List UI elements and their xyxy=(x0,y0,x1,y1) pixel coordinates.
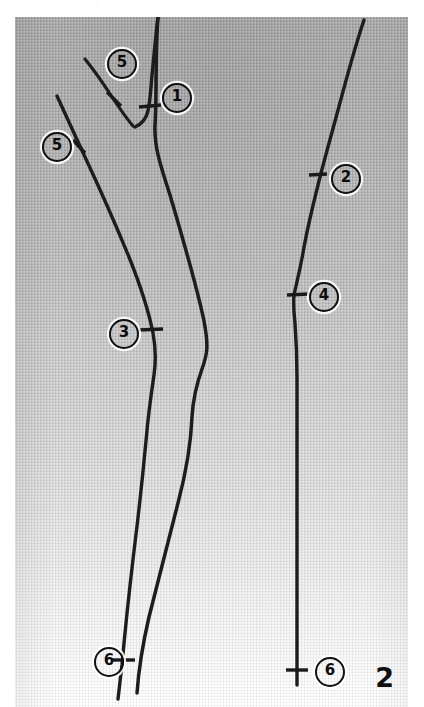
tick-1 xyxy=(139,105,161,107)
tick-5-top xyxy=(107,92,121,106)
tick-3 xyxy=(139,329,163,330)
reference-label-6-right: 6 xyxy=(315,657,345,687)
tick-2 xyxy=(309,174,327,175)
reference-label-4: 4 xyxy=(309,282,339,312)
figure-root: · · · · · · 1 5 xyxy=(0,0,424,707)
stem-diagram-svg xyxy=(15,17,408,707)
reference-label-3: 3 xyxy=(109,319,139,349)
stem-main-left xyxy=(137,17,207,693)
stem-paths-group xyxy=(57,17,364,699)
tick-marks-group xyxy=(73,92,327,670)
reference-label-1: 1 xyxy=(162,83,192,113)
photographic-plate: 1 5 5 2 3 4 6 6 2 xyxy=(15,17,408,707)
reference-label-2: 2 xyxy=(331,164,361,194)
header-text-remnant: · · · · · · xyxy=(8,0,208,9)
reference-label-6-left: 6 xyxy=(94,647,124,677)
reference-label-5-left: 5 xyxy=(42,132,72,162)
panel-number: 2 xyxy=(375,664,394,691)
stem-left-long xyxy=(57,96,155,699)
reference-label-5-top: 5 xyxy=(107,49,137,79)
stem-right xyxy=(294,20,364,685)
tick-4 xyxy=(287,294,309,295)
